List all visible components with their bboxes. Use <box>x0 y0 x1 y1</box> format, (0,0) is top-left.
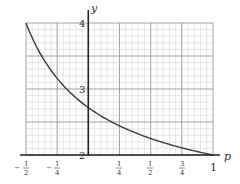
svg-text:1: 1 <box>55 160 59 168</box>
y-tick-2: 2 <box>79 150 85 161</box>
x-tick-three-quarter: 3 4 <box>179 160 185 177</box>
svg-text:4: 4 <box>117 169 122 177</box>
chart: y p 4 3 2 − 1 2 − 1 4 1 4 1 2 3 4 1 <box>0 0 240 184</box>
x-tick-neg-half: − 1 2 <box>14 160 29 177</box>
x-axis-label: p <box>224 150 231 163</box>
svg-text:2: 2 <box>24 169 28 177</box>
svg-text:1: 1 <box>117 160 121 168</box>
svg-text:4: 4 <box>55 169 60 177</box>
x-tick-neg-quarter: − 1 4 <box>46 160 60 177</box>
svg-text:3: 3 <box>180 160 184 168</box>
y-axis-label: y <box>90 2 98 15</box>
svg-text:2: 2 <box>148 169 152 177</box>
y-tick-3: 3 <box>79 84 85 95</box>
svg-text:−: − <box>46 164 52 172</box>
x-tick-1: 1 <box>210 161 217 174</box>
svg-text:1: 1 <box>148 160 152 168</box>
grid <box>26 23 213 155</box>
x-tick-half: 1 2 <box>147 160 153 177</box>
x-tick-quarter: 1 4 <box>116 160 122 177</box>
y-tick-4: 4 <box>79 18 85 29</box>
svg-text:1: 1 <box>24 160 28 168</box>
svg-text:−: − <box>14 164 20 172</box>
svg-text:4: 4 <box>180 169 185 177</box>
